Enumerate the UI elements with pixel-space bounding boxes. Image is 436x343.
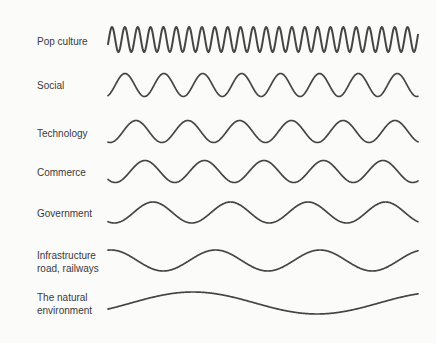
wave-social — [108, 74, 418, 97]
wave-infrastructure — [108, 250, 418, 271]
wave-government — [108, 202, 418, 223]
pace-layers-diagram: Pop culture Social Technology Commerce G… — [0, 0, 436, 343]
wave-commerce — [108, 161, 418, 183]
wave-natural-environment — [108, 292, 418, 314]
wave-technology — [108, 121, 418, 143]
waves-layer — [0, 0, 436, 343]
wave-pop-culture — [108, 27, 418, 52]
